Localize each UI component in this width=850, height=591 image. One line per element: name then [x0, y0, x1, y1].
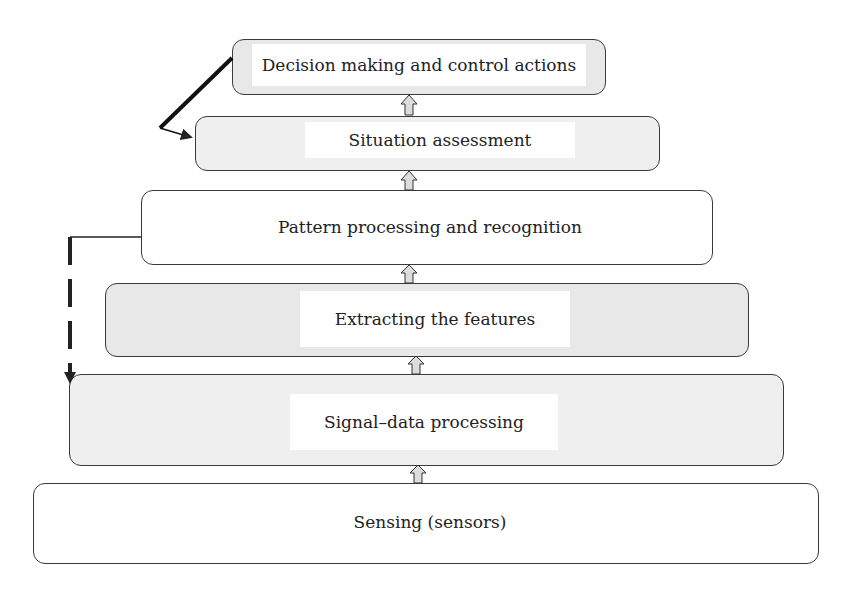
- feedback-arrow-pattern-to-signal: [64, 237, 141, 384]
- up-arrow-icon: [401, 95, 426, 483]
- feedback-arrow-decision-to-situation: [160, 58, 232, 137]
- flow-arrows: [0, 0, 850, 591]
